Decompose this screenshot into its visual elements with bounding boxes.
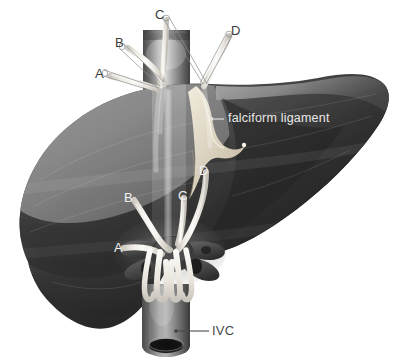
figure-canvas: C D B A D B C A falciform ligament IVC [0, 0, 397, 361]
ivc-leader-dot [174, 329, 178, 333]
falciform-leader-dot [210, 117, 213, 120]
liver-anatomy-illustration [0, 0, 397, 361]
